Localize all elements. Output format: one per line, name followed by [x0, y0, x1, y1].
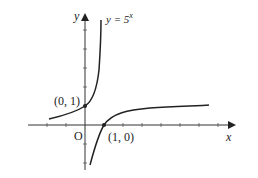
curve-label-text: y = 5 — [106, 13, 129, 25]
y-axis-label: y — [74, 10, 79, 22]
point-label-1-0: (1, 0) — [108, 131, 134, 143]
origin-label: O — [74, 130, 83, 142]
graph — [0, 0, 258, 178]
point-1-0 — [102, 123, 106, 127]
y-axis-arrow-icon — [81, 13, 89, 21]
x-axis-label: x — [226, 131, 231, 143]
curve-label-exponent: x — [129, 11, 133, 20]
point-label-0-1: (0, 1) — [54, 95, 80, 107]
curve-label: y = 5x — [106, 12, 133, 25]
point-0-1 — [83, 104, 87, 108]
x-axis-arrow-icon — [228, 121, 236, 129]
